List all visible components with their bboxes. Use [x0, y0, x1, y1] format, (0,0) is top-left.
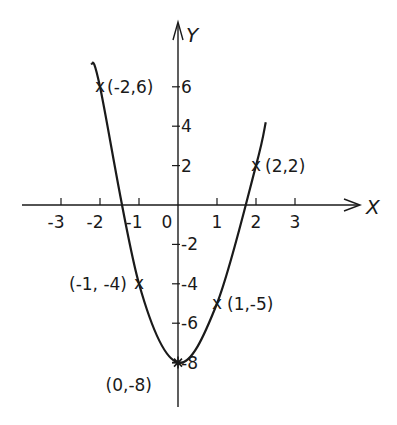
y-axis-label: Y [186, 23, 200, 47]
point-label: (1,-5) [227, 294, 273, 314]
x-tick-label: 3 [290, 212, 301, 232]
x-tick-label: -3 [48, 212, 65, 232]
x-tick-label: 0 [162, 212, 173, 232]
y-tick-label: -6 [181, 313, 198, 333]
point-label: (-2,6) [107, 77, 153, 97]
y-tick-label: 6 [181, 77, 192, 97]
y-tick-label: 4 [181, 116, 192, 136]
point-label: (0,-8) [106, 375, 152, 395]
axis-ticks: -3-2-10123642-2-4-6-8 [48, 77, 301, 373]
parabola-chart: -3-2-10123642-2-4-6-8 x(-2,6)x(-1, -4)(0… [0, 0, 397, 425]
x-tick-label: 2 [251, 212, 262, 232]
x-tick-label: -2 [87, 212, 104, 232]
y-tick-label: -2 [181, 234, 198, 254]
y-tick-label: -4 [181, 274, 198, 294]
x-marker-icon: x [212, 293, 222, 313]
x-marker-icon: x [95, 76, 105, 96]
y-tick-label: 2 [181, 156, 192, 176]
x-tick-label: 1 [212, 212, 223, 232]
point-label: (2,2) [265, 156, 305, 176]
x-tick-label: -1 [126, 212, 143, 232]
point-label: (-1, -4) [69, 274, 127, 294]
x-marker-icon: x [251, 155, 261, 175]
x-axis-label: X [365, 195, 381, 219]
x-marker-icon: x [134, 273, 144, 293]
